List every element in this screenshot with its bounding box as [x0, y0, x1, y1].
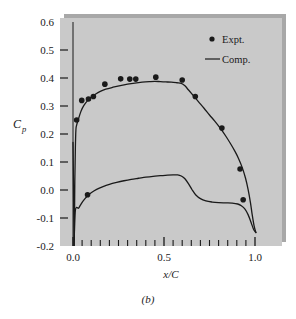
pressure-coefficient-chart: -0.2-0.10.00.10.20.30.40.50.6 0.00.51.0 …: [0, 0, 296, 319]
data-point-expt: [237, 166, 243, 172]
plot-panel-background: [60, 18, 282, 246]
figure-caption: (b): [142, 293, 155, 306]
y-axis-label-subscript: p: [21, 124, 26, 134]
figure-container: -0.2-0.10.00.10.20.30.40.50.6 0.00.51.0 …: [0, 0, 296, 319]
y-axis-tick-label: 0.5: [40, 44, 54, 56]
data-point-expt: [79, 98, 85, 104]
y-axis-tick-label: -0.2: [37, 240, 54, 252]
data-point-expt: [193, 94, 199, 100]
data-point-expt: [102, 81, 108, 87]
y-axis-tick-label: -0.1: [37, 212, 54, 224]
y-axis-tick-label: 0.0: [40, 184, 54, 196]
data-point-expt: [133, 76, 139, 82]
data-point-expt: [153, 74, 159, 80]
y-axis-tick-label: 0.3: [40, 100, 54, 112]
x-axis-tick-label: 0.0: [66, 251, 80, 263]
data-point-expt: [219, 125, 225, 131]
x-axis-tick-labels: 0.00.51.0: [66, 251, 262, 263]
data-point-expt: [74, 117, 80, 123]
data-point-expt: [240, 197, 246, 203]
legend-label-expt: Expt.: [222, 34, 244, 45]
x-axis-tick-label: 1.0: [248, 251, 262, 263]
y-axis-tick-label: 0.2: [40, 128, 54, 140]
data-point-expt: [85, 192, 91, 198]
data-point-expt: [86, 96, 92, 102]
data-point-expt: [179, 77, 185, 83]
legend-marker-expt: [209, 36, 214, 41]
y-axis-tick-label: 0.4: [40, 72, 54, 84]
legend-label-comp: Comp.: [222, 54, 250, 65]
y-axis-tick-label: 0.6: [40, 16, 54, 28]
y-axis-tick-labels: -0.2-0.10.00.10.20.30.40.50.6: [37, 16, 55, 252]
data-point-expt: [91, 94, 97, 100]
x-axis-label: x/C: [162, 268, 179, 280]
x-axis-tick-label: 0.5: [157, 251, 171, 263]
data-point-expt: [127, 76, 133, 82]
data-point-expt: [118, 76, 124, 82]
y-axis-tick-label: 0.1: [40, 156, 54, 168]
y-axis-label: C: [13, 117, 22, 131]
